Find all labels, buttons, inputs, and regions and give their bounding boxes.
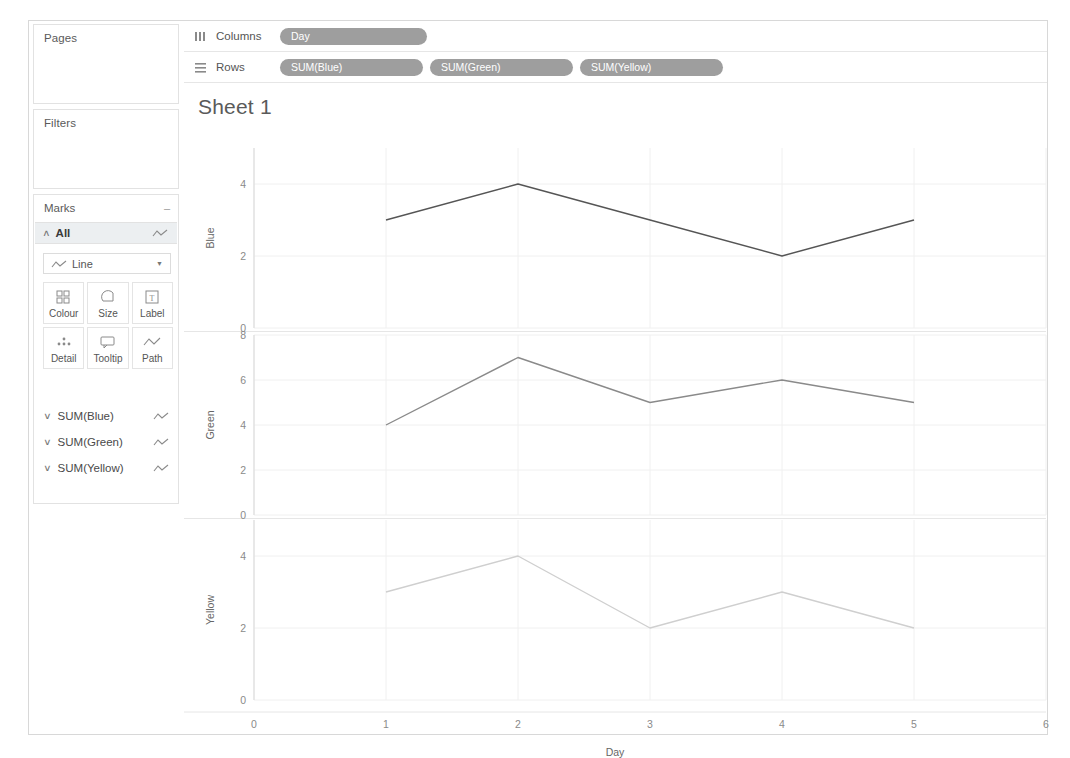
path-label: Path <box>142 353 163 364</box>
filters-card-title: Filters <box>34 110 178 129</box>
shelves-area: Columns Day Rows SUM(Blue) SUM(Green) SU… <box>184 21 1047 85</box>
chart-area[interactable]: 024Blue02468Green024Yellow0123456 Day <box>184 130 1047 734</box>
marks-item-sum-blue[interactable]: ∨ SUM(Blue) <box>34 403 178 429</box>
chevron-down-icon[interactable]: ∨ <box>43 463 51 473</box>
marks-card-title: Marks <box>44 202 75 214</box>
x-tick-label: 5 <box>911 718 917 730</box>
label-icon: T <box>145 288 159 307</box>
y-tick-label: 6 <box>240 374 246 386</box>
x-tick-label: 2 <box>515 718 521 730</box>
y-tick-label: 0 <box>240 694 246 706</box>
marks-card-header: Marks – <box>34 195 178 214</box>
pill-sum-blue[interactable]: SUM(Blue) <box>280 59 423 76</box>
y-tick-label: 2 <box>240 250 246 262</box>
collapse-icon[interactable]: – <box>164 204 170 212</box>
filters-card[interactable]: Filters <box>33 109 179 189</box>
y-tick-label: 2 <box>240 464 246 476</box>
columns-shelf-label: Columns <box>216 30 280 42</box>
line-mark-icon <box>153 407 169 425</box>
pages-card-title: Pages <box>34 25 178 44</box>
detail-label: Detail <box>51 353 77 364</box>
detail-button[interactable]: Detail <box>43 327 84 369</box>
marks-item-label: SUM(Green) <box>58 436 153 448</box>
marks-card[interactable]: Marks – ∧ All Line ▼ <box>33 194 179 504</box>
x-axis-title: Day <box>184 746 1046 758</box>
path-button[interactable]: Path <box>132 327 173 369</box>
y-axis-title: Green <box>204 410 216 439</box>
rows-shelf[interactable]: Rows SUM(Blue) SUM(Green) SUM(Yellow) <box>184 52 1047 83</box>
marks-all-label: All <box>56 227 152 239</box>
chevron-up-icon[interactable]: ∧ <box>42 228 50 238</box>
detail-icon <box>56 333 72 352</box>
marks-item-sum-yellow[interactable]: ∨ SUM(Yellow) <box>34 455 178 481</box>
pages-card[interactable]: Pages <box>33 24 179 104</box>
pill-day[interactable]: Day <box>280 28 427 45</box>
y-tick-label: 0 <box>240 509 246 521</box>
chevron-down-icon[interactable]: ▼ <box>156 260 163 267</box>
size-icon <box>100 288 116 307</box>
y-axis-title: Yellow <box>204 595 216 625</box>
mark-type-dropdown[interactable]: Line ▼ <box>43 253 171 274</box>
path-icon <box>143 333 161 352</box>
size-label: Size <box>98 308 117 319</box>
page-title: Sheet 1 <box>198 95 272 119</box>
line-mark-icon <box>152 224 168 242</box>
svg-text:T: T <box>150 294 155 303</box>
pill-sum-yellow[interactable]: SUM(Yellow) <box>580 59 723 76</box>
marks-item-label: SUM(Blue) <box>58 410 153 422</box>
pill-sum-green[interactable]: SUM(Green) <box>430 59 573 76</box>
y-tick-label: 8 <box>240 329 246 341</box>
y-axis-title: Blue <box>204 227 216 248</box>
line-mark-icon <box>153 459 169 477</box>
worksheet-view[interactable]: Sheet 1 024Blue02468Green024Yellow012345… <box>184 85 1047 734</box>
tableau-worksheet-window: Pages Filters Marks – ∧ All Line <box>28 20 1048 735</box>
mark-type-value: Line <box>72 258 156 270</box>
marks-item-sum-green[interactable]: ∨ SUM(Green) <box>34 429 178 455</box>
x-tick-label: 6 <box>1043 718 1049 730</box>
tooltip-label: Tooltip <box>94 353 123 364</box>
marks-item-label: SUM(Yellow) <box>58 462 153 474</box>
x-tick-label: 4 <box>779 718 785 730</box>
colour-icon <box>56 288 71 307</box>
left-sidebar: Pages Filters Marks – ∧ All Line <box>29 21 184 734</box>
line-chart: 024Blue02468Green024Yellow0123456 <box>184 130 1049 730</box>
marks-all-row[interactable]: ∧ All <box>35 222 177 244</box>
y-tick-label: 4 <box>240 550 246 562</box>
marks-measure-list: ∨ SUM(Blue) ∨ SUM(Green) ∨ SUM(Yellow) <box>34 403 178 481</box>
columns-icon <box>192 31 209 42</box>
marks-buttons: Colour Size T Label <box>43 282 173 369</box>
tooltip-icon <box>100 333 116 352</box>
line-mark-icon <box>153 433 169 451</box>
x-tick-label: 0 <box>251 718 257 730</box>
label-label: Label <box>140 308 164 319</box>
columns-shelf[interactable]: Columns Day <box>184 21 1047 52</box>
tooltip-button[interactable]: Tooltip <box>87 327 128 369</box>
y-tick-label: 2 <box>240 622 246 634</box>
x-tick-label: 3 <box>647 718 653 730</box>
colour-label: Colour <box>49 308 78 319</box>
rows-icon <box>192 62 209 73</box>
colour-button[interactable]: Colour <box>43 282 84 324</box>
line-icon <box>51 255 67 273</box>
rows-shelf-label: Rows <box>216 61 280 73</box>
label-button[interactable]: T Label <box>132 282 173 324</box>
y-tick-label: 4 <box>240 178 246 190</box>
chevron-down-icon[interactable]: ∨ <box>43 411 51 421</box>
chevron-down-icon[interactable]: ∨ <box>43 437 51 447</box>
x-tick-label: 1 <box>383 718 389 730</box>
size-button[interactable]: Size <box>87 282 128 324</box>
y-tick-label: 4 <box>240 419 246 431</box>
